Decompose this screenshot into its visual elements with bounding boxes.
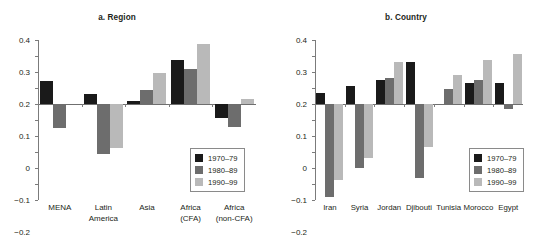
legend-swatch-icon — [195, 166, 203, 174]
y-axis-tick-label: 0.3 — [19, 68, 30, 77]
y-axis-tick-label: −0.2 — [14, 228, 30, 237]
figure-root: a. Region 0.40.30.20.10−0.1−0.2−0.3−0.4−… — [0, 0, 539, 241]
x-axis-label: Iran — [315, 203, 345, 214]
bar-stack — [404, 40, 434, 200]
bar — [406, 62, 415, 104]
y-axis-tick-label: 0.1 — [296, 132, 307, 141]
x-axis-label: Tunisia — [434, 203, 464, 214]
bar-stack — [82, 40, 126, 200]
bar — [84, 94, 97, 104]
legend-label: 1980–89 — [208, 166, 238, 175]
x-axis-labels-b: IranSyriaJordanDjiboutiTunisiaMoroccoEgy… — [315, 203, 523, 214]
bar-group — [404, 40, 434, 200]
chart-title-a: a. Region — [0, 13, 252, 23]
legend-item: 1980–89 — [195, 164, 238, 176]
legend-swatch-icon — [195, 178, 203, 186]
bar-stack — [345, 40, 375, 200]
bar — [53, 104, 66, 128]
legend-item: 1980–89 — [474, 164, 517, 176]
bar — [495, 83, 504, 104]
y-axis-tick-label: 0.2 — [19, 100, 30, 109]
bar — [197, 44, 210, 104]
legend-a: 1970–79 1980–89 1990–99 — [190, 148, 245, 192]
bar — [385, 78, 394, 104]
bar — [465, 83, 474, 104]
bar — [355, 104, 364, 168]
bar — [140, 90, 153, 104]
bar — [241, 99, 254, 104]
legend-b: 1970–79 1980–89 1990–99 — [469, 148, 524, 192]
y-axis-tick-label: −0.1 — [291, 196, 307, 205]
bar — [376, 80, 385, 104]
legend-label: 1980–89 — [487, 166, 517, 175]
legend-label: 1970–79 — [208, 154, 238, 163]
y-axis-tick-label: 0.1 — [19, 132, 30, 141]
bar — [184, 69, 197, 104]
bar — [424, 104, 433, 147]
legend-item: 1990–99 — [195, 176, 238, 188]
bar — [127, 101, 140, 104]
legend-item: 1970–79 — [474, 152, 517, 164]
legend-label: 1990–99 — [487, 178, 517, 187]
legend-swatch-icon — [474, 166, 482, 174]
x-axis-label: Morocco — [463, 203, 493, 214]
bar-group — [434, 40, 464, 200]
y-axis-tick: −0.6 — [35, 200, 38, 201]
bar — [444, 89, 453, 104]
y-axis-tick-label: 0.3 — [296, 68, 307, 77]
x-axis-labels-a: MENALatin AmericaAsiaAfrica (CFA)Africa … — [38, 203, 256, 224]
bar — [215, 104, 228, 118]
bar-stack — [374, 40, 404, 200]
x-axis-label: Egypt — [493, 203, 523, 214]
legend-swatch-icon — [474, 154, 482, 162]
bar-stack — [125, 40, 169, 200]
x-axis-label: Jordan — [374, 203, 404, 214]
y-axis-tick-label: 0.2 — [296, 100, 307, 109]
bar-group — [125, 40, 169, 200]
bar — [325, 104, 334, 197]
bar-stack — [315, 40, 345, 200]
bar-stack — [434, 40, 464, 200]
x-axis-label: Djibouti — [404, 203, 434, 214]
bar — [110, 104, 123, 148]
x-axis-label: Syria — [345, 203, 375, 214]
chart-title-b: b. Country — [271, 13, 539, 23]
bar — [334, 104, 343, 180]
y-axis-tick-label: 0 — [26, 164, 30, 173]
y-axis-tick-label: 0 — [303, 164, 307, 173]
legend-swatch-icon — [474, 178, 482, 186]
x-axis-label: Asia — [125, 203, 169, 224]
x-axis-label: MENA — [38, 203, 82, 224]
bar — [97, 104, 110, 154]
bar — [453, 75, 462, 104]
y-axis-tick-label: −0.1 — [14, 196, 30, 205]
chart-panel-country: b. Country 0.40.30.20.10−0.1−0.2−0.3−0.4… — [269, 0, 539, 241]
bar — [483, 60, 492, 104]
legend-swatch-icon — [195, 154, 203, 162]
bar-group — [38, 40, 82, 200]
bar — [316, 93, 325, 104]
legend-label: 1990–99 — [208, 178, 238, 187]
bar — [228, 104, 241, 127]
legend-item: 1970–79 — [195, 152, 238, 164]
x-axis-label: Latin America — [82, 203, 126, 224]
bar-group — [82, 40, 126, 200]
y-axis-tick-label: −0.2 — [291, 228, 307, 237]
bar — [364, 104, 373, 158]
chart-panel-region: a. Region 0.40.30.20.10−0.1−0.2−0.3−0.4−… — [0, 0, 270, 241]
bar — [153, 73, 166, 104]
legend-label: 1970–79 — [487, 154, 517, 163]
bar-stack — [38, 40, 82, 200]
bar-group — [315, 40, 345, 200]
bar — [504, 104, 513, 109]
x-axis-label: Africa (non-CFA) — [212, 203, 256, 224]
legend-item: 1990–99 — [474, 176, 517, 188]
bar — [394, 62, 403, 104]
bar — [513, 54, 522, 104]
bar — [346, 86, 355, 104]
bar — [171, 60, 184, 104]
y-axis-tick-label: 0.4 — [296, 36, 307, 45]
y-axis-tick: −0.6 — [312, 200, 315, 201]
bar-group — [374, 40, 404, 200]
x-axis-label: Africa (CFA) — [169, 203, 213, 224]
